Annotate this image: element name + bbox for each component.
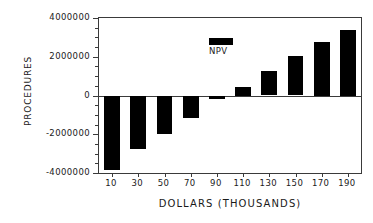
y-axis-minor-tick (95, 144, 99, 145)
y-axis-minor-tick (95, 76, 99, 77)
y-axis-tick (93, 173, 99, 174)
y-axis-tick (93, 96, 99, 97)
y-axis-minor-tick (95, 37, 99, 38)
x-axis-tick-label: 130 (260, 178, 277, 188)
y-axis-tick-label: 0 (84, 90, 90, 100)
y-axis-minor-tick (95, 154, 99, 155)
y-axis-minor-tick (95, 125, 99, 126)
y-axis-minor-tick (95, 47, 99, 48)
y-axis-minor-tick (95, 28, 99, 29)
bar (288, 56, 304, 95)
y-axis-minor-tick (95, 86, 99, 87)
bar (209, 96, 225, 100)
bar (183, 96, 199, 118)
y-axis-tick-label: -4000000 (46, 167, 90, 177)
y-axis-tick (93, 57, 99, 58)
x-axis-tick-label: 150 (286, 178, 303, 188)
y-axis-tick-labels: 400000020000000-2000000-4000000 (0, 17, 90, 174)
bar (261, 71, 277, 96)
x-axis-tick-label: 30 (131, 178, 143, 188)
x-axis-tick (322, 173, 323, 177)
y-axis-minor-tick (95, 115, 99, 116)
x-axis-tick-label: 190 (338, 178, 355, 188)
x-axis-tick (348, 173, 349, 177)
y-axis-minor-tick (95, 105, 99, 106)
x-axis-tick-label: 170 (312, 178, 329, 188)
x-axis-tick (269, 173, 270, 177)
y-axis-minor-tick (95, 163, 99, 164)
y-axis-tick (93, 18, 99, 19)
plot-area: NPV (98, 17, 362, 174)
legend-swatch-npv (209, 38, 233, 45)
x-axis-tick-labels: 1030507090110130150170190 (98, 178, 362, 192)
x-axis-tick (112, 173, 113, 177)
x-axis-tick (243, 173, 244, 177)
y-axis-tick (93, 134, 99, 135)
bar (104, 96, 120, 171)
y-axis-tick-label: 4000000 (49, 12, 90, 22)
y-axis-tick-label: -2000000 (46, 128, 90, 138)
x-axis-tick (191, 173, 192, 177)
bar (235, 87, 251, 96)
y-axis-tick-label: 2000000 (49, 51, 90, 61)
chart-container: PROCEDURES 400000020000000-2000000-40000… (0, 0, 373, 223)
x-axis-tick-label: 70 (184, 178, 196, 188)
legend: NPV (209, 38, 233, 56)
bar (157, 96, 173, 135)
bar (130, 96, 146, 149)
legend-label-npv: NPV (209, 46, 233, 56)
x-axis-tick (165, 173, 166, 177)
x-axis-tick-label: 110 (233, 178, 250, 188)
x-axis-tick (138, 173, 139, 177)
x-axis-title: DOLLARS (THOUSANDS) (98, 198, 362, 209)
x-axis-tick (296, 173, 297, 177)
x-axis-tick-label: 50 (158, 178, 170, 188)
y-axis-minor-tick (95, 66, 99, 67)
bar (314, 42, 330, 95)
x-axis-tick (217, 173, 218, 177)
x-axis-tick-label: 90 (210, 178, 222, 188)
bar (340, 30, 356, 96)
x-axis-tick-label: 10 (105, 178, 117, 188)
